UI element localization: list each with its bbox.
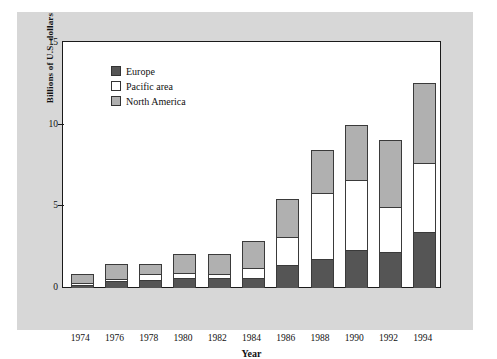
bar-segment-north-america (208, 254, 231, 275)
x-tick-label: 1974 (71, 333, 90, 343)
bar-segment-pacific-area (276, 237, 299, 266)
bar-segment-europe (413, 232, 436, 288)
x-tick-label: 1986 (276, 333, 295, 343)
bar-1976 (105, 264, 128, 287)
bar-1982 (208, 254, 231, 287)
bar-segment-pacific-area (413, 163, 436, 233)
plot-area: Billions of U.S. dollars 051015 19741976… (62, 41, 441, 288)
x-axis-title: Year (63, 348, 440, 359)
bar-segment-europe (208, 278, 231, 288)
x-tick-label: 1980 (173, 333, 192, 343)
bar-segment-north-america (311, 150, 334, 194)
y-tick-label: 10 (49, 119, 59, 129)
bar-segment-europe (379, 252, 402, 288)
x-tick-label: 1994 (413, 333, 432, 343)
bar-segment-europe (311, 259, 334, 288)
bar-segment-europe (71, 285, 94, 288)
legend-swatch-icon (111, 66, 121, 76)
bar-segment-pacific-area (345, 180, 368, 252)
bar-1984 (242, 241, 265, 287)
bar-segment-pacific-area (379, 207, 402, 253)
x-tick-label: 1982 (208, 333, 227, 343)
bar-1980 (173, 254, 196, 287)
bar-segment-europe (105, 281, 128, 288)
legend-swatch-icon (111, 81, 121, 91)
bar-segment-europe (173, 278, 196, 288)
bar-segment-north-america (242, 241, 265, 269)
bar-segment-north-america (276, 199, 299, 238)
y-tick-label: 0 (53, 282, 58, 292)
bar-segment-europe (242, 278, 265, 288)
bar-1990 (345, 125, 368, 287)
bar-segment-pacific-area (311, 193, 334, 260)
bar-1994 (413, 83, 436, 287)
bar-segment-north-america (379, 140, 402, 209)
x-tick-label: 1990 (345, 333, 364, 343)
legend-label: Europe (126, 66, 155, 77)
x-tick-label: 1984 (242, 333, 261, 343)
bar-segment-north-america (173, 254, 196, 274)
bar-segment-north-america (345, 125, 368, 181)
legend-item: Europe (111, 64, 186, 78)
legend-label: North America (126, 96, 186, 107)
chart-legend: EuropePacific areaNorth America (111, 64, 186, 109)
bar-1988 (311, 150, 334, 287)
bar-segment-europe (139, 280, 162, 288)
bar-segment-north-america (413, 83, 436, 165)
y-tick-label: 15 (49, 37, 59, 47)
bar-1992 (379, 140, 402, 287)
legend-item: North America (111, 94, 186, 108)
bar-segment-north-america (105, 264, 128, 280)
legend-item: Pacific area (111, 79, 186, 93)
y-axis-title: Billions of U.S. dollars (45, 0, 55, 138)
legend-swatch-icon (111, 96, 121, 106)
bar-1986 (276, 199, 299, 287)
x-tick-label: 1988 (311, 333, 330, 343)
x-tick-label: 1992 (379, 333, 398, 343)
bar-1978 (139, 264, 162, 287)
x-tick-label: 1978 (139, 333, 158, 343)
x-tick-label: 1976 (105, 333, 124, 343)
bar-segment-europe (276, 265, 299, 288)
bar-segment-europe (345, 250, 368, 288)
legend-label: Pacific area (126, 81, 173, 92)
bar-1974 (71, 274, 94, 287)
